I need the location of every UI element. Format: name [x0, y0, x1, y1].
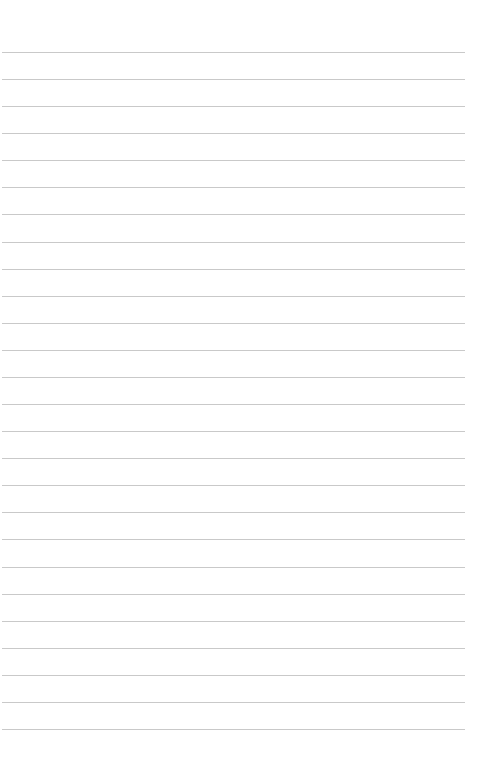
lined-page: [0, 0, 493, 780]
ruled-line: [2, 52, 465, 53]
ruled-line: [2, 675, 465, 676]
ruled-line: [2, 621, 465, 622]
ruled-line: [2, 539, 465, 540]
ruled-line: [2, 512, 465, 513]
ruled-line: [2, 458, 465, 459]
ruled-line: [2, 323, 465, 324]
ruled-line: [2, 296, 465, 297]
ruled-line: [2, 648, 465, 649]
ruled-line: [2, 350, 465, 351]
ruled-line: [2, 133, 465, 134]
ruled-line: [2, 242, 465, 243]
ruled-line: [2, 106, 465, 107]
ruled-line: [2, 567, 465, 568]
ruled-line: [2, 729, 465, 730]
ruled-line: [2, 702, 465, 703]
ruled-line: [2, 485, 465, 486]
ruled-line: [2, 404, 465, 405]
ruled-line: [2, 79, 465, 80]
ruled-line: [2, 214, 465, 215]
ruled-line: [2, 594, 465, 595]
ruled-line: [2, 160, 465, 161]
ruled-line: [2, 187, 465, 188]
ruled-line: [2, 269, 465, 270]
ruled-line: [2, 377, 465, 378]
ruled-line: [2, 431, 465, 432]
